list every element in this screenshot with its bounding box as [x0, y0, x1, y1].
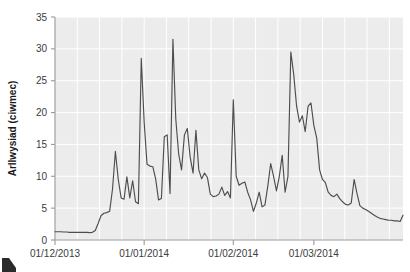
y-tick-label: 25 [36, 75, 48, 86]
corner-marker-icon [2, 258, 16, 272]
x-tick-label: 01/03/2014 [289, 248, 339, 259]
y-tick-label: 20 [36, 107, 48, 118]
y-axis-title: Arllwysiad (ciwmec) [7, 81, 18, 177]
x-tick-label: 01/02/2014 [208, 248, 258, 259]
discharge-time-series-chart: 0510152025303501/12/201301/01/201401/02/… [0, 0, 410, 272]
x-tick-label: 01/01/2014 [119, 248, 169, 259]
chart-canvas: 0510152025303501/12/201301/01/201401/02/… [0, 0, 410, 272]
x-tick-label: 01/12/2013 [30, 248, 80, 259]
y-tick-label: 5 [41, 203, 47, 214]
y-tick-label: 35 [36, 12, 48, 23]
y-tick-label: 10 [36, 171, 48, 182]
y-tick-label: 0 [41, 235, 47, 246]
plot-area-background [55, 17, 403, 240]
y-tick-label: 15 [36, 139, 48, 150]
y-tick-label: 30 [36, 43, 48, 54]
